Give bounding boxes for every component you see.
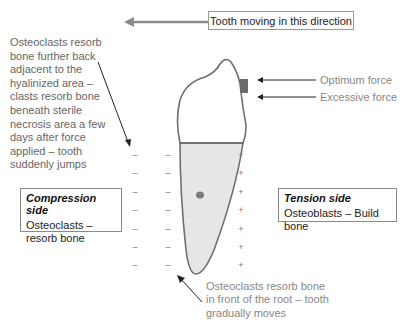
tooth-root xyxy=(180,143,243,274)
minus-sign: – xyxy=(130,150,140,160)
compression-body: Osteoclasts – resorb bone xyxy=(26,219,116,245)
minus-sign: – xyxy=(163,242,173,252)
plus-sign: + xyxy=(236,242,246,252)
plus-sign: + xyxy=(236,224,246,234)
bracket-icon xyxy=(240,79,248,93)
plus-sign: + xyxy=(236,150,246,160)
tooth-crown xyxy=(178,59,247,143)
excessive-force-label: Excessive force xyxy=(320,91,397,103)
tension-title: Tension side xyxy=(284,192,391,204)
minus-sign: – xyxy=(163,260,173,270)
center-of-resistance-dot xyxy=(196,192,204,199)
plus-sign: + xyxy=(236,187,246,197)
root-front-arrow-icon xyxy=(177,275,202,302)
minus-sign: – xyxy=(130,205,140,215)
optimum-force-label: Optimum force xyxy=(320,74,392,86)
minus-sign: – xyxy=(163,150,173,160)
minus-sign: – xyxy=(163,168,173,178)
direction-label: Tooth moving in this direction xyxy=(208,11,354,30)
minus-sign: – xyxy=(130,242,140,252)
plus-sign: + xyxy=(236,205,246,215)
plus-sign: + xyxy=(236,260,246,270)
optimum-force-arrow-icon xyxy=(257,77,316,83)
hyalinized-note: Osteoclasts resorb bone further back adj… xyxy=(10,36,110,172)
minus-sign: – xyxy=(130,224,140,234)
minus-sign: – xyxy=(163,187,173,197)
plus-sign: + xyxy=(236,168,246,178)
compression-side-box: Compression side Osteoclasts – resorb bo… xyxy=(20,188,122,232)
compression-title: Compression side xyxy=(26,192,116,216)
minus-sign: – xyxy=(130,168,140,178)
gradual-move-note: Osteoclasts resorb bone in front of the … xyxy=(206,280,336,320)
tension-body: Osteoblasts – Build bone xyxy=(284,207,391,233)
excessive-force-arrow-icon xyxy=(257,94,316,100)
tension-side-box: Tension side Osteoblasts – Build bone xyxy=(278,188,397,222)
minus-sign: – xyxy=(163,224,173,234)
minus-sign: – xyxy=(163,205,173,215)
minus-sign: – xyxy=(130,187,140,197)
minus-sign: – xyxy=(130,260,140,270)
direction-arrow-icon xyxy=(124,17,208,27)
